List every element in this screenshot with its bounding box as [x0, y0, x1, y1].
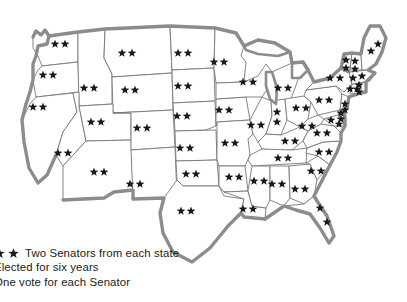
- state-oregon: [33, 62, 79, 97]
- star-icon: [8, 248, 19, 259]
- legend-line-1: Two Senators from each state: [0, 246, 224, 260]
- map-legend: Two Senators from each state Elected for…: [0, 246, 224, 289]
- legend-text-line-1: Two Senators from each state: [25, 246, 179, 260]
- state-arkansas: [219, 166, 248, 192]
- state-mississippi: [248, 166, 270, 208]
- state-montana: [104, 26, 172, 77]
- star-icon: [0, 248, 5, 259]
- state-wyoming: [112, 73, 173, 113]
- state-north-dakota: [170, 26, 215, 70]
- legend-line-2: Elected for six years: [0, 260, 224, 274]
- state-kansas: [175, 130, 217, 161]
- legend-line-3: One vote for each Senator: [0, 275, 224, 289]
- state-minnesota: [214, 28, 246, 83]
- senators-map-figure: Two Senators from each state Elected for…: [0, 0, 407, 302]
